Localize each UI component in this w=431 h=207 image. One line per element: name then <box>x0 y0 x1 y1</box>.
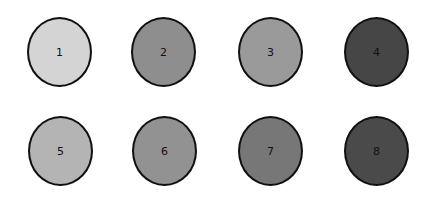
circle-5: 5 <box>28 116 93 186</box>
circle-label: 5 <box>57 145 64 158</box>
circle-2: 2 <box>131 17 196 87</box>
circle-6: 6 <box>132 116 197 186</box>
circle-label: 1 <box>56 46 63 59</box>
circle-3: 3 <box>238 17 303 87</box>
circle-label: 8 <box>373 145 380 158</box>
circle-label: 4 <box>373 46 380 59</box>
circle-4: 4 <box>344 17 409 87</box>
circle-label: 3 <box>267 46 274 59</box>
circle-7: 7 <box>238 116 303 186</box>
circle-label: 6 <box>161 145 168 158</box>
circle-1: 1 <box>27 17 92 87</box>
circle-label: 2 <box>160 46 167 59</box>
circle-8: 8 <box>344 116 409 186</box>
circle-label: 7 <box>267 145 274 158</box>
